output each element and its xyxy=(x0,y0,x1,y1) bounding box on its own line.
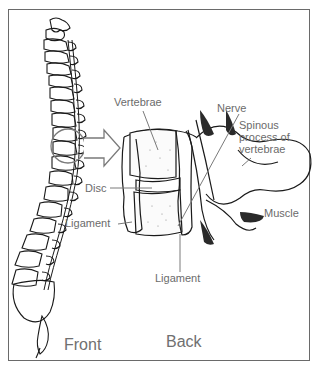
spine-diagram-art xyxy=(0,0,316,369)
label-muscle: Muscle xyxy=(264,207,299,219)
label-front: Front xyxy=(64,336,101,354)
spine-illustration xyxy=(12,18,86,358)
label-disc: Disc xyxy=(85,182,106,194)
label-spinous-line2: process of xyxy=(239,131,290,143)
label-back: Back xyxy=(166,333,202,351)
label-spinous-line3: vertebrae xyxy=(239,143,285,155)
label-ligament-left: Ligament xyxy=(65,217,110,229)
label-vertebrae: Vertebrae xyxy=(114,96,162,108)
label-nerve: Nerve xyxy=(217,102,246,114)
vertebra-closeup xyxy=(122,129,196,236)
label-ligament-bottom: Ligament xyxy=(155,272,200,284)
label-spinous-line1: Spinous xyxy=(239,119,279,131)
